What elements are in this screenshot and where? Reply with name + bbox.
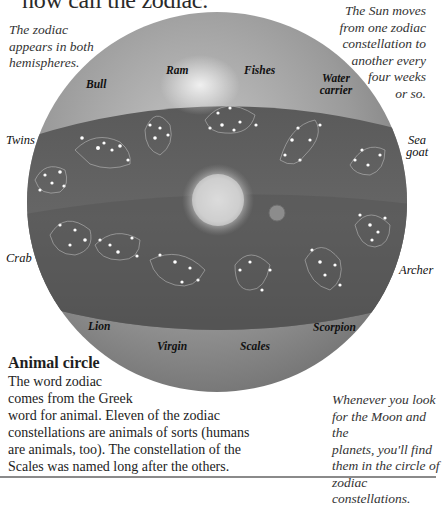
label-crab: Crab [6,252,32,264]
section-heading: Animal circle [8,354,100,372]
label-scorpion: Scorpion [313,321,356,333]
note-line: planets, you'll find [332,442,442,459]
planet-icon [269,205,285,221]
label-lion: Lion [88,320,110,332]
label-twins: Twins [6,134,35,146]
note-line: for the Moon and the [332,409,442,442]
note-line: them in the circle of [332,458,442,475]
section-body: The word zodiac comes from the Greek wor… [8,373,318,475]
note-moon-planets: Whenever you look for the Moon and the p… [332,392,442,507]
label-archer: Archer [399,264,433,276]
body-line: are animals, too). The constellation of … [8,441,318,458]
label-water-carrier: Water carrier [314,72,358,96]
body-line: word for animal. Eleven of the zodiac [8,407,318,424]
label-bull: Bull [86,78,106,90]
label-sea-goat: Sea goat [402,134,432,158]
label-scales: Scales [240,340,270,352]
body-line: The word zodiac [8,373,318,390]
label-ram: Ram [166,64,188,76]
label-virgin: Virgin [157,340,187,352]
note-line: Whenever you look [332,392,442,409]
body-line: comes from the Greek [8,390,318,407]
body-line: Scales was named long after the others. [8,458,318,475]
label-fishes: Fishes [244,64,275,76]
divider [0,476,436,478]
body-line: constellations are animals of sorts (hum… [8,424,318,441]
note-line: zodiac constellations. [332,475,442,507]
